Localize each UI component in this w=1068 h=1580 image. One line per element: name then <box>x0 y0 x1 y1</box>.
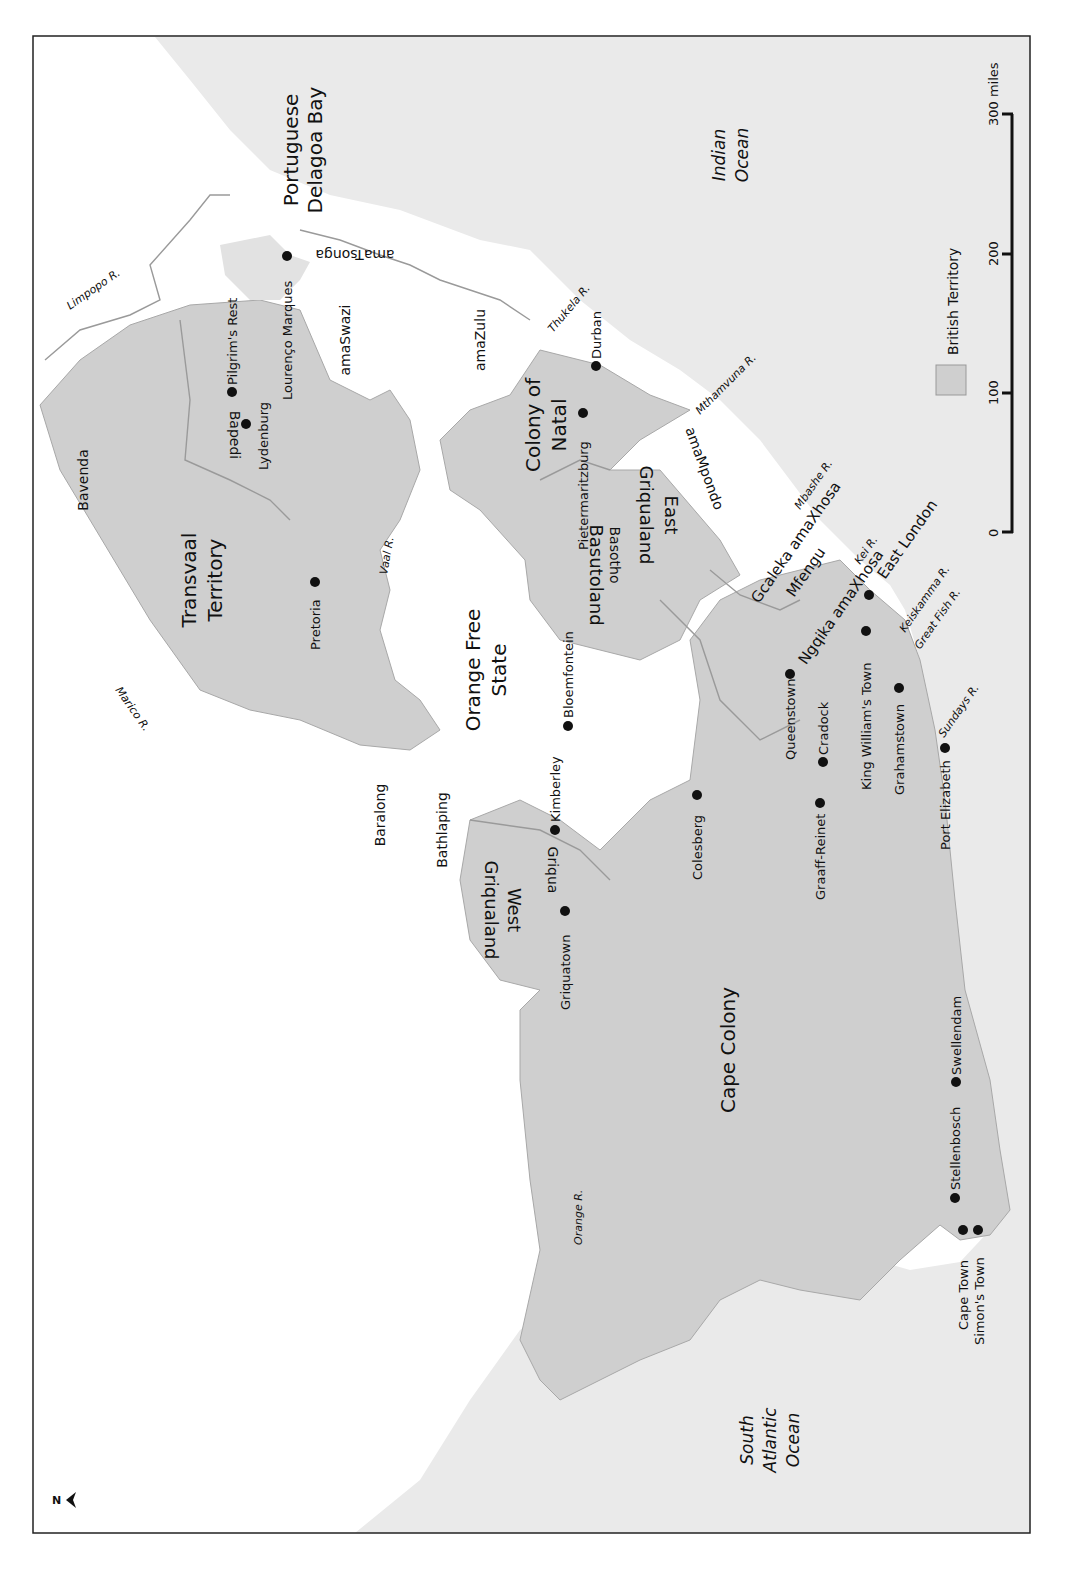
town-label-simons-town: Simon's Town <box>972 1257 987 1345</box>
legend-swatch-british <box>936 365 966 395</box>
region-label-natal-1: Colony of <box>521 377 545 472</box>
ocean-label-atlantic-1: South <box>737 1415 757 1464</box>
ocean-label-atlantic-2: Atlantic <box>760 1407 780 1474</box>
people-label-basotho: Basotho <box>607 527 623 584</box>
region-label-ofs-1: Orange Free <box>461 609 485 732</box>
town-label-king-williams-town: King William's Town <box>859 663 874 790</box>
town-label-cape-town: Cape Town <box>956 1260 971 1330</box>
people-label-baralong: Baralong <box>372 784 388 847</box>
region-label-cape: Cape Colony <box>716 987 740 1113</box>
town-label-kimberley: Kimberley <box>548 756 563 822</box>
people-label-bapedi: Bapedi <box>227 411 243 459</box>
scale-tick-0: 0 <box>986 529 1001 537</box>
town-label-swellendam: Swellendam <box>949 996 964 1075</box>
region-label-ofs-2: State <box>487 644 511 697</box>
town-label-grahamstown: Grahamstown <box>892 704 907 795</box>
scale-tick-100: 100 <box>986 380 1001 405</box>
region-label-natal-2: Natal <box>547 399 571 452</box>
ocean-label-atlantic-3: Ocean <box>783 1413 803 1467</box>
scale-tick-200: 200 <box>986 241 1001 266</box>
people-label-amazulu: amaZulu <box>472 309 488 371</box>
legend-label-british: British Territory <box>945 248 961 355</box>
region-label-griqualand-east-2: East <box>661 496 682 535</box>
town-label-colesberg: Colesberg <box>690 815 705 880</box>
region-label-griqualand-east-1: Griqualand <box>636 465 657 564</box>
people-label-amatsonga: amaTsonga <box>315 247 394 263</box>
town-label-lourenco-marques: Lourenço Marques <box>280 280 295 400</box>
town-label-griquatown: Griquatown <box>558 935 573 1010</box>
people-label-griqua: Griqua <box>545 847 561 894</box>
people-label-bavenda: Bavenda <box>75 449 91 510</box>
region-label-griqualand-west-1: Griqualand <box>481 860 502 959</box>
region-label-griqualand-west-2: West <box>504 888 525 932</box>
town-label-stellenbosch: Stellenbosch <box>948 1107 963 1190</box>
scale-tick-300: 300 miles <box>986 62 1001 126</box>
town-label-pretoria: Pretoria <box>308 599 323 650</box>
town-label-lydenburg: Lydenburg <box>256 402 271 470</box>
town-label-durban: Durban <box>589 311 604 359</box>
people-label-amaswazi: amaSwazi <box>337 305 353 376</box>
town-label-pilgrims-rest: Pilgrim's Rest <box>225 298 240 385</box>
region-label-portuguese-2: Delagoa Bay <box>303 86 327 213</box>
river-label-orange: Orange R. <box>572 1190 585 1245</box>
ocean-label-indian-2: Ocean <box>732 128 752 182</box>
map-canvas: Indian Ocean South Atlantic Ocean Transv… <box>0 0 1068 1580</box>
town-label-queenstown: Queenstown <box>783 679 798 760</box>
ocean-label-indian-1: Indian <box>709 129 729 182</box>
people-label-bathlaping: Bathlaping <box>434 792 450 868</box>
region-label-transvaal-2: Territory <box>203 538 227 622</box>
town-label-pietermaritzburg: Pietermaritzburg <box>576 441 591 550</box>
town-label-port-elizabeth: Port Elizabeth <box>938 760 953 850</box>
town-label-cradock: Cradock <box>816 701 831 755</box>
town-label-bloemfontein: Bloemfontein <box>561 631 576 718</box>
north-arrow-label: N <box>52 1494 61 1507</box>
region-label-portuguese-1: Portuguese <box>279 94 303 207</box>
town-label-graaff-reinet: Graaff-Reinet <box>813 814 828 900</box>
region-label-transvaal-1: Transvaal <box>177 533 201 629</box>
